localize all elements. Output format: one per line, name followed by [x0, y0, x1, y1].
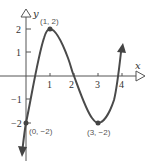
x-tick-1: 1 — [47, 79, 52, 90]
x-axis-label: x — [135, 60, 141, 71]
curve-arrow-up-icon — [117, 43, 126, 53]
y-tick-1: 1 — [16, 47, 21, 58]
point-min-label: (3, −2) — [87, 128, 111, 137]
y-tick-neg1: −1 — [11, 94, 22, 105]
x-axis-arrow-icon — [136, 71, 145, 81]
point-max-label: (1, 2) — [40, 17, 59, 26]
y-axis-label: y — [32, 8, 39, 19]
x-tick-4: 4 — [119, 79, 124, 90]
y-axis-arrow-icon — [21, 9, 31, 17]
point-max — [48, 27, 53, 32]
x-tick-2: 2 — [69, 79, 74, 90]
x-tick-3: 3 — [95, 79, 100, 90]
y-tick-2: 2 — [16, 24, 21, 35]
point-y-intercept — [24, 121, 29, 126]
point-min — [96, 121, 101, 126]
y-tick-neg2: −2 — [11, 118, 22, 129]
point-y-intercept-label: (0, −2) — [29, 127, 53, 136]
graph: x y 1 2 3 4 2 1 −1 −2 (1, 2) (0, −2) (3,… — [0, 0, 150, 163]
